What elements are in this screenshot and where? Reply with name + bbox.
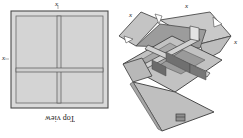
top-view-diagram: [5, 5, 108, 108]
top-view-label-x-top: x: [55, 1, 58, 8]
top-view-horizontal-divider: [16, 68, 103, 72]
figure-container: x x Top view x x x: [0, 0, 243, 138]
top-view-vertical-divider: [57, 16, 61, 103]
box-locking-tab: [190, 26, 199, 41]
box-label-x-top-flap: x: [185, 3, 188, 10]
box-label-x-left-flap: x: [129, 12, 132, 19]
box-latch-slot: [176, 114, 185, 121]
isometric-box-diagram: [119, 12, 231, 131]
top-view-caption: Top view: [31, 114, 89, 123]
box-label-x-right-flap: x: [234, 39, 237, 46]
top-view-label-x-left: x: [2, 55, 5, 62]
